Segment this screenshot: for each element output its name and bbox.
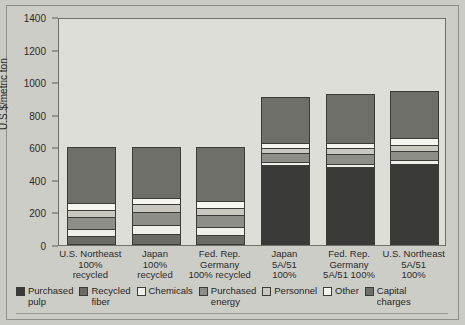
bar-segment (67, 217, 116, 228)
legend-item[interactable]: Chemicals (137, 286, 193, 297)
legend-label: Personnel (274, 286, 317, 297)
legend-swatch-icon (323, 287, 332, 296)
bar-segment (67, 210, 116, 217)
legend-swatch-icon (16, 287, 25, 296)
bar-segment (390, 91, 439, 138)
bar-segment (67, 229, 116, 236)
legend-label: Chemicals (149, 286, 193, 297)
bars-container (59, 19, 445, 245)
bar-segment (261, 153, 310, 162)
legend-item[interactable]: Personnel (262, 286, 317, 297)
x-axis-label: Fed. Rep. Germany 100% recycled (187, 249, 252, 281)
y-axis-tick-label: 0 (0, 241, 46, 252)
legend-item[interactable]: Other (323, 286, 359, 297)
x-axis-label: U.S. Northeast 100% recycled (58, 249, 123, 281)
bar-segment (132, 147, 181, 197)
bar-stack[interactable] (261, 97, 310, 245)
y-axis-tick-label: 200 (0, 208, 46, 219)
bar-segment (132, 212, 181, 224)
legend-swatch-icon (365, 287, 374, 296)
bar-stack[interactable] (67, 147, 116, 245)
legend-label: Other (335, 286, 359, 297)
legend-item[interactable]: Capital charges (365, 286, 411, 307)
legend-swatch-icon (137, 287, 146, 296)
chart-figure: U.S.$/metric ton 02004006008001000120014… (0, 0, 465, 325)
bar-segment (326, 167, 375, 245)
bar-segment (196, 147, 245, 201)
legend-swatch-icon (79, 287, 88, 296)
plot-area (58, 18, 446, 246)
bar-segment (261, 97, 310, 143)
bar-stack[interactable] (132, 147, 181, 245)
y-axis-tick-label: 1200 (0, 45, 46, 56)
bar-segment (196, 215, 245, 227)
legend-item[interactable]: Recycled fiber (79, 286, 130, 307)
bar-segment (196, 227, 245, 235)
bar-segment (196, 208, 245, 215)
bar-segment (261, 165, 310, 245)
bar-segment (67, 236, 116, 245)
bar-segment (132, 204, 181, 212)
x-axis-label: U.S. Northeast 5A/51 100% (381, 249, 446, 281)
y-axis-tick-label: 1400 (0, 13, 46, 24)
legend-item[interactable]: Purchased energy (199, 286, 256, 307)
x-axis-label: Japan 5A/51 100% (252, 249, 317, 281)
bar-segment (132, 225, 181, 234)
bar-stack[interactable] (196, 147, 245, 245)
legend-label: Capital charges (377, 286, 411, 307)
bar-stack[interactable] (390, 91, 439, 245)
bar-stack[interactable] (326, 94, 375, 245)
bar-segment (132, 234, 181, 245)
x-axis-label: Fed. Rep. Germany 5A/51 100% (317, 249, 382, 281)
legend-divider (16, 313, 448, 314)
bar-segment (326, 94, 375, 144)
bar-segment (390, 151, 439, 161)
bar-segment (326, 154, 375, 164)
y-axis-tick-label: 400 (0, 175, 46, 186)
legend-item[interactable]: Purchased pulp (16, 286, 73, 307)
bar-segment (67, 203, 116, 210)
y-axis-tick-label: 1000 (0, 78, 46, 89)
legend-swatch-icon (199, 287, 208, 296)
chart-legend: Purchased pulpRecycled fiberChemicalsPur… (16, 286, 448, 312)
legend-label: Purchased energy (211, 286, 256, 307)
y-axis-tick-label: 800 (0, 110, 46, 121)
bar-segment (196, 235, 245, 245)
legend-swatch-icon (262, 287, 271, 296)
legend-label: Recycled fiber (91, 286, 130, 307)
y-axis-tick-label: 600 (0, 143, 46, 154)
legend-label: Purchased pulp (28, 286, 73, 307)
x-axis-label: Japan 100% recycled (123, 249, 188, 281)
bar-segment (390, 164, 439, 245)
bar-segment (67, 147, 116, 202)
